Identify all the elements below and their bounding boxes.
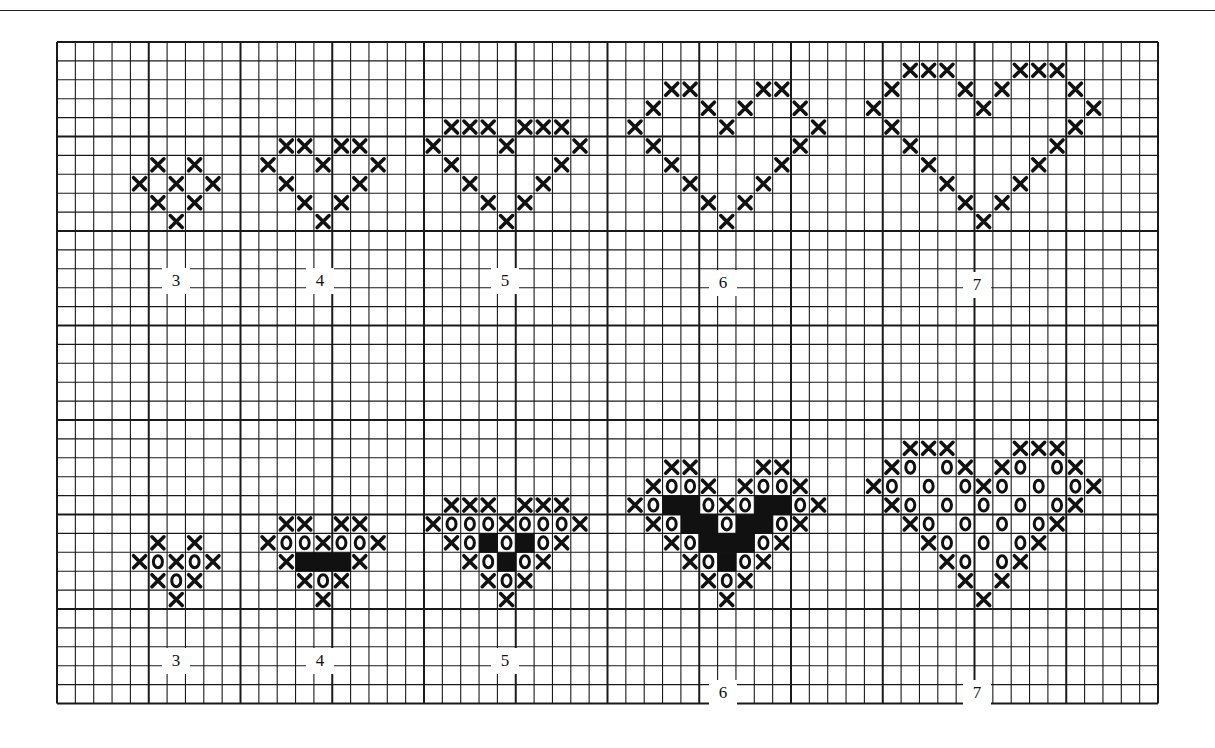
cross-stitch-icon — [996, 461, 1008, 473]
size-label-bottom-6: 6 — [709, 680, 737, 706]
circle-stitch-icon — [777, 518, 786, 530]
cross-stitch-icon — [1033, 64, 1045, 76]
cross-stitch-icon — [335, 518, 347, 530]
cross-stitch-icon — [537, 556, 549, 568]
filled-square-icon — [681, 496, 700, 515]
size-label-bottom-7: 7 — [963, 680, 991, 706]
size-label-top-4: 4 — [306, 268, 334, 294]
cross-stitch-icon — [923, 159, 935, 171]
circle-stitch-icon — [686, 537, 695, 549]
top-heart-4 — [262, 140, 384, 228]
cross-stitch-icon — [501, 216, 513, 228]
circle-stitch-icon — [704, 556, 713, 568]
cross-stitch-icon — [280, 178, 292, 190]
cross-stitch-icon — [189, 159, 201, 171]
cross-stitch-icon — [299, 197, 311, 209]
circle-stitch-icon — [153, 556, 162, 568]
cross-stitch-icon — [941, 64, 953, 76]
cross-stitch-icon — [1088, 480, 1100, 492]
circle-stitch-icon — [1016, 499, 1025, 511]
cross-stitch-icon — [684, 83, 696, 95]
filled-square-icon — [699, 515, 718, 534]
cross-stitch-icon — [482, 499, 494, 511]
cross-stitch-icon — [427, 140, 439, 152]
cross-stitch-icon — [446, 499, 458, 511]
cross-stitch-icon — [739, 102, 751, 114]
cross-stitch-icon — [299, 575, 311, 587]
cross-stitch-icon — [446, 121, 458, 133]
circle-stitch-icon — [484, 556, 493, 568]
circle-stitch-icon — [1016, 461, 1025, 473]
circle-stitch-icon — [502, 537, 511, 549]
cross-stitch-icon — [886, 121, 898, 133]
circle-stitch-icon — [1053, 461, 1062, 473]
circle-stitch-icon — [704, 499, 713, 511]
circle-stitch-icon — [796, 499, 805, 511]
cross-stitch-icon — [519, 121, 531, 133]
circle-stitch-icon — [172, 575, 181, 587]
cross-stitch-icon — [739, 480, 751, 492]
circle-stitch-icon — [722, 518, 731, 530]
cross-stitch-icon — [757, 556, 769, 568]
cross-stitch-icon — [904, 140, 916, 152]
cross-stitch-icon — [574, 518, 586, 530]
cross-stitch-icon — [739, 575, 751, 587]
filled-square-icon — [773, 496, 792, 515]
cross-stitch-icon — [813, 121, 825, 133]
filled-square-icon — [681, 515, 700, 534]
cross-stitch-icon — [556, 499, 568, 511]
cross-stitch-icon — [996, 197, 1008, 209]
cross-stitch-icon — [537, 121, 549, 133]
cross-stitch-icon — [152, 537, 164, 549]
cross-stitch-icon — [280, 518, 292, 530]
circle-stitch-icon — [998, 518, 1007, 530]
cross-stitch-icon — [868, 480, 880, 492]
cross-stitch-icon — [482, 575, 494, 587]
cross-stitch-icon — [978, 594, 990, 606]
circle-stitch-icon — [924, 518, 933, 530]
filled-square-icon — [516, 533, 535, 552]
cross-stitch-icon — [647, 480, 659, 492]
circle-stitch-icon — [686, 480, 695, 492]
cross-stitch-icon — [280, 140, 292, 152]
cross-stitch-icon — [464, 178, 476, 190]
cross-stitch-icon — [647, 518, 659, 530]
cross-stitch-icon — [629, 121, 641, 133]
cross-stitch-icon — [923, 64, 935, 76]
cross-stitch-icon — [776, 537, 788, 549]
cross-stitch-icon — [170, 178, 182, 190]
cross-stitch-icon — [134, 178, 146, 190]
cross-stitch-icon — [684, 178, 696, 190]
cross-stitch-icon — [941, 178, 953, 190]
cross-stitch-icon — [776, 159, 788, 171]
cross-stitch-icon — [152, 575, 164, 587]
circle-stitch-icon — [887, 480, 896, 492]
size-label-top-5: 5 — [491, 268, 519, 294]
filled-square-icon — [754, 515, 773, 534]
circle-stitch-icon — [722, 575, 731, 587]
cross-stitch-icon — [702, 480, 714, 492]
heart-motifs — [134, 64, 1100, 605]
cross-stitch-icon — [317, 159, 329, 171]
circle-stitch-icon — [961, 480, 970, 492]
cross-stitch-icon — [207, 556, 219, 568]
circle-stitch-icon — [1071, 480, 1080, 492]
cross-stitch-icon — [776, 461, 788, 473]
cross-stitch-icon — [354, 140, 366, 152]
cross-stitch-icon — [372, 537, 384, 549]
circle-stitch-icon — [484, 518, 493, 530]
cross-stitch-icon — [757, 83, 769, 95]
circle-stitch-icon — [539, 537, 548, 549]
size-label-top-6: 6 — [709, 270, 737, 296]
cross-stitch-icon — [446, 537, 458, 549]
cross-stitch-icon — [739, 197, 751, 209]
cross-stitch-icon — [941, 442, 953, 454]
cross-stitch-icon — [923, 442, 935, 454]
cross-stitch-icon — [317, 216, 329, 228]
circle-stitch-icon — [924, 480, 933, 492]
cross-stitch-icon — [501, 518, 513, 530]
cross-stitch-icon — [794, 102, 806, 114]
cross-stitch-icon — [1033, 159, 1045, 171]
cross-stitch-icon — [794, 480, 806, 492]
cross-stitch-icon — [978, 480, 990, 492]
